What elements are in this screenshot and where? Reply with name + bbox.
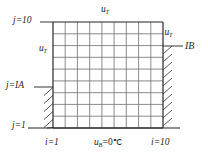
label-left-boundary-uT: uT xyxy=(39,44,47,54)
label-bottom-boundary-unit: ℃ xyxy=(113,138,122,147)
label-left-boundary-subscript: T xyxy=(43,47,46,54)
hatch-stroke xyxy=(163,78,172,86)
hatch-stroke xyxy=(163,70,172,78)
hatch-stroke xyxy=(163,54,172,62)
label-top-boundary-subscript: T xyxy=(105,8,108,15)
label-IB: IB xyxy=(185,41,194,51)
label-j-IA: j=IA xyxy=(6,81,24,91)
label-bottom-boundary-equals: =0 xyxy=(103,137,113,147)
hatch-stroke xyxy=(47,128,53,129)
grid-lines xyxy=(53,22,163,128)
hatch-stroke xyxy=(163,118,172,126)
domain-boundary xyxy=(53,22,163,128)
right-hatching xyxy=(163,46,172,126)
hatch-stroke xyxy=(163,110,172,118)
label-right-boundary-uT: uT xyxy=(165,28,173,38)
label-i-1: i=1 xyxy=(45,138,59,148)
label-bottom-boundary-uB: uB=0℃ xyxy=(94,138,122,148)
label-top-boundary-uT: uT xyxy=(101,5,109,15)
label-bottom-boundary-subscript: B xyxy=(98,141,102,148)
label-j-10: j=10 xyxy=(13,16,32,26)
hatch-stroke xyxy=(44,96,53,104)
hatch-stroke xyxy=(163,94,172,102)
figure-container: j=10 uT uT IB uT j=IA j=1 i=1 uB=0℃ i=10 xyxy=(0,0,208,160)
hatch-stroke xyxy=(44,120,53,128)
hatch-stroke xyxy=(44,88,53,96)
hatch-stroke xyxy=(163,46,172,54)
hatch-stroke xyxy=(44,104,53,112)
hatch-stroke xyxy=(163,86,172,94)
hatch-stroke xyxy=(44,112,53,120)
left-hatching xyxy=(44,88,53,129)
hatch-stroke xyxy=(163,62,172,70)
label-i-10: i=10 xyxy=(151,138,170,148)
hatch-stroke xyxy=(163,102,172,110)
label-right-boundary-subscript: T xyxy=(169,31,172,38)
label-j-1: j=1 xyxy=(12,121,26,131)
